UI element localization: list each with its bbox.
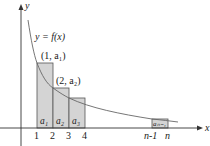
series-diagram: x y y = f(x) (1, a₁) (2, a₂) a₁ a₂ a₃ aₙ… — [0, 0, 210, 146]
y-axis-label: y — [24, 0, 30, 11]
tick-1: 1 — [34, 130, 39, 141]
tick-4: 4 — [82, 130, 87, 141]
bar-label-an-1: aₙ₋₁ — [153, 120, 166, 128]
x-axis-arrow-icon — [197, 126, 203, 131]
curve-label: y = f(x) — [34, 31, 66, 43]
tick-3: 3 — [66, 130, 71, 141]
y-axis-arrow-icon — [19, 4, 24, 10]
bar-label-a2: a₂ — [56, 116, 65, 126]
tick-n-1: n-1 — [144, 130, 157, 141]
x-axis-label: x — [204, 122, 210, 133]
tick-2: 2 — [50, 130, 55, 141]
point-label-2: (2, a₂) — [56, 75, 81, 87]
bar-label-a3: a₃ — [72, 116, 80, 126]
tick-n: n — [165, 130, 170, 141]
bar-label-a1: a₁ — [40, 116, 48, 126]
point-label-1: (1, a₁) — [41, 50, 66, 62]
